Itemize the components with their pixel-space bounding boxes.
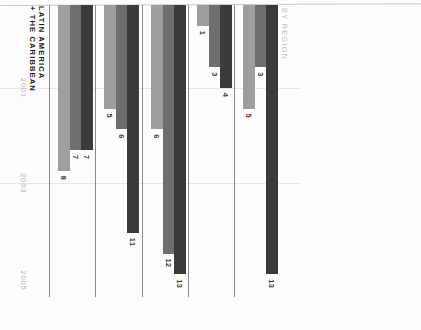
region-group: 778LATIN AMERICA+ THE CARIBBEAN	[0, 0, 300, 330]
chart-outer-axis	[50, 5, 51, 297]
bar-2001	[59, 5, 71, 171]
region-label-line: LATIN AMERICA	[37, 6, 47, 92]
bar-2003	[70, 5, 82, 150]
region-label: LATIN AMERICA+ THE CARIBBEAN	[28, 6, 47, 92]
region-label-line: + THE CARIBBEAN	[28, 6, 38, 92]
bar-value-label: 7	[83, 155, 92, 160]
bar-chart: 200120032005BY REGION1335AFRICA431ARAB S…	[0, 0, 300, 330]
bar-2005	[82, 5, 94, 150]
scanned-page: 200120032005BY REGION1335AFRICA431ARAB S…	[0, 0, 421, 330]
bar-value-label: 8	[60, 176, 69, 181]
bar-value-label: 7	[71, 155, 80, 160]
rotated-chart-wrapper: 200120032005BY REGION1335AFRICA431ARAB S…	[0, 0, 300, 330]
